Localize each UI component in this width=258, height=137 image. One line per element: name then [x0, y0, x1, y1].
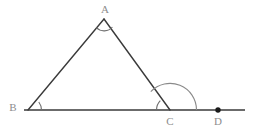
angle-arc-bca — [157, 101, 161, 110]
segment-ab — [28, 19, 104, 110]
vertex-label-c: C — [166, 116, 173, 127]
geometry-diagram: A B C D — [0, 0, 258, 137]
vertex-label-d: D — [214, 116, 222, 127]
vertex-label-b: B — [9, 102, 16, 113]
angle-arc-b — [39, 102, 42, 110]
point-marker-d — [215, 107, 220, 112]
segment-ac — [104, 19, 170, 110]
vertex-label-a: A — [101, 4, 109, 15]
